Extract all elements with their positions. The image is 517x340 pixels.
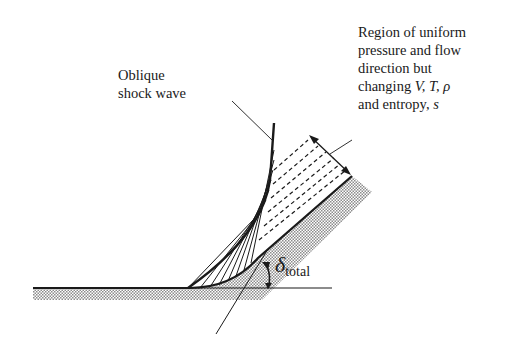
wall-body bbox=[33, 176, 372, 300]
region-label-line-4: changing V, T, ρ bbox=[358, 77, 466, 95]
shock-label-line-1: Oblique bbox=[118, 66, 186, 84]
region-label-line-5: and entropy, s bbox=[358, 95, 466, 113]
shock-label: Oblique shock wave bbox=[118, 66, 186, 102]
region-leader-line bbox=[330, 140, 352, 154]
shock-leader-line bbox=[232, 101, 272, 140]
delta-symbol: δ bbox=[275, 252, 285, 277]
region-label-line-1: Region of uniform bbox=[358, 23, 466, 41]
region-label-line-2: pressure and flow bbox=[358, 41, 466, 59]
region-width-arrow bbox=[311, 137, 349, 173]
region-label: Region of uniform pressure and flow dire… bbox=[358, 23, 466, 113]
shock-label-line-2: shock wave bbox=[118, 84, 186, 102]
region-label-line-3: direction but bbox=[358, 59, 466, 77]
angle-label: δtotal bbox=[275, 252, 310, 278]
delta-subscript: total bbox=[285, 264, 310, 279]
